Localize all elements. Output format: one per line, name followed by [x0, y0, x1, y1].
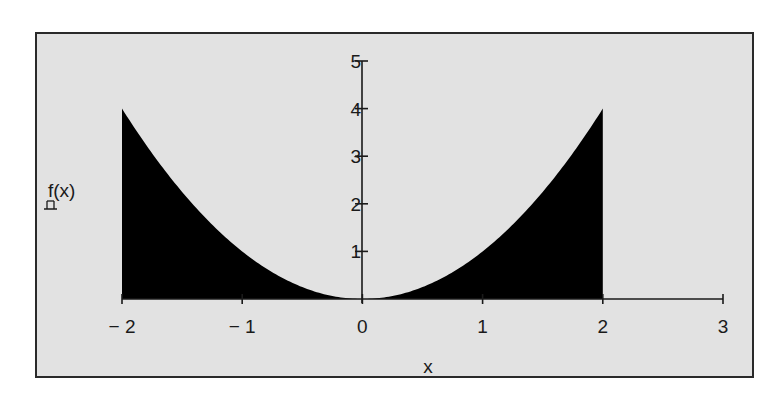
- x-tick-label: 0: [357, 316, 368, 337]
- x-tick-label: 1: [477, 316, 488, 337]
- y-tick-label: 3: [350, 146, 361, 167]
- x-tick-label: − 2: [109, 316, 136, 337]
- y-tick-label: 2: [350, 194, 361, 215]
- x-tick-label: − 1: [229, 316, 256, 337]
- y-axis-placeholder-icon[interactable]: [44, 201, 57, 209]
- x-tick-label: 3: [718, 316, 729, 337]
- y-tick-label: 1: [350, 241, 361, 262]
- plot-area: − 2− 10123 12345 x f(x): [0, 0, 784, 409]
- y-tick-label: 5: [350, 51, 361, 72]
- x-axis-ticks: − 2− 10123: [109, 294, 729, 337]
- x-axis-label: x: [423, 356, 433, 377]
- x-tick-label: 2: [598, 316, 609, 337]
- y-axis-ticks: 12345: [350, 51, 368, 262]
- y-axis-label: f(x): [48, 180, 75, 201]
- y-tick-label: 4: [350, 99, 361, 120]
